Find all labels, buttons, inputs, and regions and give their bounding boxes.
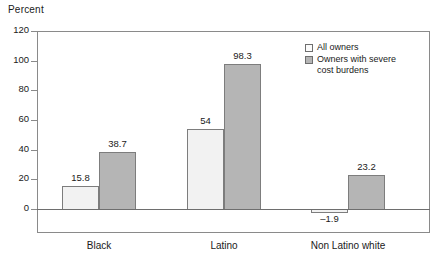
legend-swatch-icon	[305, 44, 313, 52]
legend-item-label: All owners	[317, 42, 359, 53]
y-axis-title: Percent	[8, 4, 44, 15]
legend-swatch-icon	[305, 56, 313, 64]
bar-black-severe-burden	[99, 152, 136, 210]
bar-black-all-owners	[62, 186, 99, 210]
zero-baseline	[37, 209, 430, 210]
x-axis-category-non-latino-white: Non Latino white	[298, 240, 398, 251]
y-axis-tick-label: 60	[18, 113, 29, 124]
bar-value-label: 23.2	[348, 161, 385, 172]
y-axis-tick-label: 120	[13, 24, 29, 35]
x-axis-category-latino: Latino	[174, 240, 274, 251]
bar-non-latino-white-severe-burden	[348, 175, 385, 210]
y-axis-tick-label: 40	[18, 143, 29, 154]
bar-value-label: 38.7	[99, 138, 136, 149]
bar-value-label: –1.9	[311, 213, 348, 224]
y-axis-tick-label: 20	[18, 172, 29, 183]
bar-value-label: 15.8	[62, 172, 99, 183]
y-axis-tick-label: 80	[18, 83, 29, 94]
legend-item-severe-cost-burdens: Owners with severe cost burdens	[305, 54, 409, 76]
y-axis-tick-label: 0	[24, 202, 29, 213]
legend-item-label: Owners with severe cost burdens	[317, 54, 409, 76]
bar-latino-all-owners	[187, 129, 224, 210]
bar-latino-severe-burden	[224, 64, 261, 211]
legend-item-all-owners: All owners	[305, 42, 409, 53]
bar-chart: Percent 120 100 80 60 40 20 0 15.8 38.7 …	[0, 0, 442, 266]
y-axis-tick-label: 100	[13, 54, 29, 65]
bar-value-label: 54	[187, 115, 224, 126]
bar-value-label: 98.3	[224, 50, 261, 61]
legend: All owners Owners with severe cost burde…	[305, 42, 409, 77]
x-axis-category-black: Black	[49, 240, 149, 251]
